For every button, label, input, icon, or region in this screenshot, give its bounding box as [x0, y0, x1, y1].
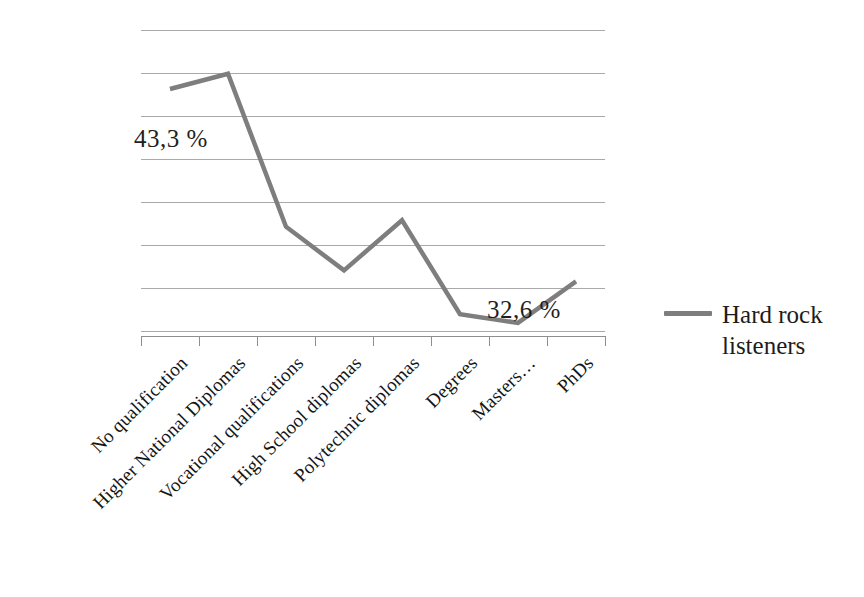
x-axis-category-labels: No qualification Higher National Diploma… [0, 0, 864, 597]
legend-label-hard-rock-listeners: Hard rock listeners [722, 300, 852, 361]
chart-legend: Hard rock listeners [664, 300, 860, 361]
legend-label-line-2: listeners [722, 331, 852, 362]
line-chart: 43,3 % 32,6 % No qualification Higher Na… [0, 0, 864, 597]
legend-label-line-1: Hard rock [722, 300, 852, 331]
legend-color-swatch-hard-rock-listeners [664, 311, 712, 316]
